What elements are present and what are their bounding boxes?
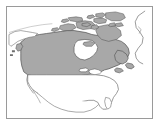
- north-america-map: [7, 7, 152, 118]
- island-melville: [68, 17, 83, 22]
- map-screenshot: [0, 0, 160, 128]
- map-frame: [6, 6, 153, 119]
